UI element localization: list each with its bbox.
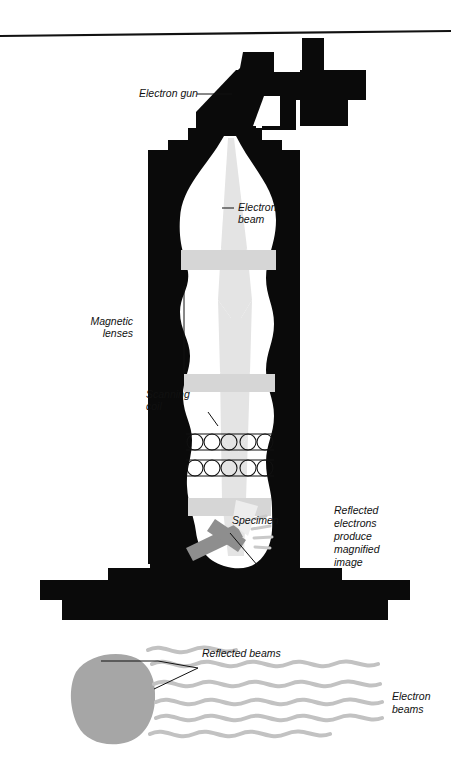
- label-scanning-coil-line2: coil: [146, 400, 162, 412]
- label-reflected-note-line1: Reflected: [334, 504, 380, 516]
- lens-band-2: [184, 374, 275, 392]
- label-reflected-note-line2: electrons: [334, 517, 377, 529]
- label-electron-beams-line1: Electron: [392, 690, 431, 702]
- label-electron-beam-line2: beam: [238, 213, 265, 225]
- wave-beam: [150, 731, 330, 736]
- label-electron-gun: Electron gun: [139, 87, 198, 99]
- label-electron-beam-line1: Electron: [238, 201, 277, 213]
- label-magnetic-lenses-line1: Magnetic: [90, 315, 133, 327]
- figure-canvas: Electron gun Electron beam Magnetic lens…: [0, 0, 451, 762]
- lens-band-1: [181, 250, 276, 270]
- column-shoulder-left: [148, 152, 176, 172]
- electron-gun-wedge: [196, 70, 256, 128]
- top-rule-line: [0, 31, 451, 36]
- label-reflected-note-line4: magnified: [334, 543, 381, 555]
- specimen-blob: [71, 654, 155, 744]
- label-magnetic-lenses-line2: lenses: [103, 327, 134, 339]
- wave-beam: [156, 715, 382, 720]
- wavy-electron-beams: [148, 647, 382, 736]
- label-scanning-coil-line1: Scanning: [146, 388, 190, 400]
- wave-beam: [156, 699, 382, 704]
- label-reflected-beams: Reflected beams: [202, 647, 282, 659]
- sem-diagram: Electron gun Electron beam Magnetic lens…: [0, 0, 451, 762]
- label-reflected-note-line5: image: [334, 556, 363, 568]
- bottom-beam-illustration: [71, 647, 382, 744]
- wave-beam: [154, 681, 380, 686]
- label-specimen: Specimen: [232, 514, 279, 526]
- electron-gun-shoulder: [300, 70, 366, 126]
- label-electron-beams-line2: beams: [392, 703, 424, 715]
- label-reflected-note-line3: produce: [333, 530, 372, 542]
